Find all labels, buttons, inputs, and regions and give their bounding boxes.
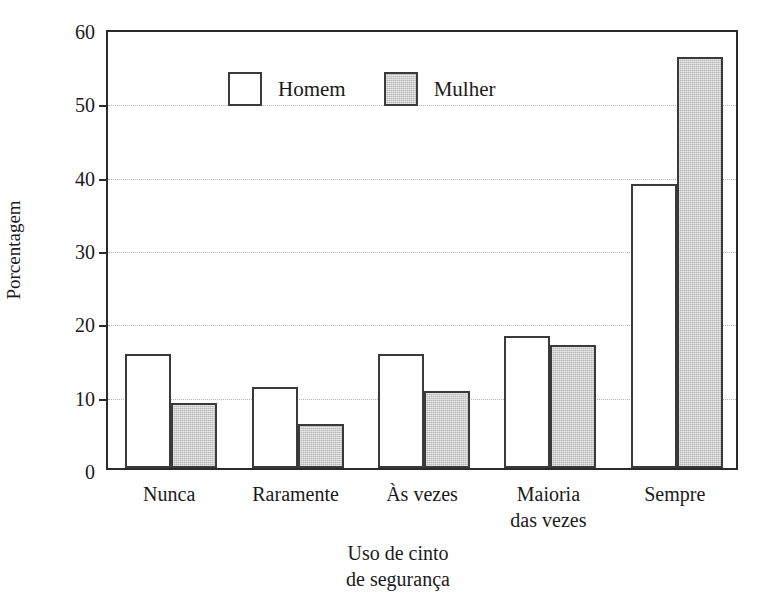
bar bbox=[252, 387, 298, 468]
bar bbox=[378, 354, 424, 468]
bar bbox=[125, 354, 171, 468]
bar-chart: Porcentagem 0102030405060 HomemMulher Nu… bbox=[0, 0, 774, 614]
y-tick-mark bbox=[99, 325, 108, 327]
legend-label: Homem bbox=[278, 79, 346, 100]
y-tick-label: 40 bbox=[75, 169, 95, 189]
bar bbox=[504, 336, 550, 468]
y-tick-label: 50 bbox=[75, 95, 95, 115]
bar bbox=[550, 345, 596, 468]
y-tick-mark bbox=[99, 252, 108, 254]
x-category-label: Nunca bbox=[143, 482, 195, 508]
y-tick-label: 20 bbox=[75, 315, 95, 335]
y-tick-label: 0 bbox=[85, 462, 95, 482]
y-tick-mark bbox=[99, 105, 108, 107]
y-tick-label: 30 bbox=[75, 242, 95, 262]
legend-entry: Mulher bbox=[384, 72, 496, 106]
bar bbox=[677, 57, 723, 468]
bar bbox=[298, 424, 344, 468]
y-tick-mark bbox=[99, 399, 108, 401]
bar bbox=[171, 403, 217, 468]
bar bbox=[424, 391, 470, 468]
legend-entry: Homem bbox=[228, 72, 346, 106]
x-axis-title: Uso de cinto de segurança bbox=[346, 540, 450, 592]
x-category-label: Maioria das vezes bbox=[510, 482, 586, 533]
x-category-label: Sempre bbox=[644, 482, 705, 508]
bar bbox=[631, 184, 677, 468]
y-tick-mark bbox=[99, 179, 108, 181]
legend-swatch-mulher bbox=[384, 72, 418, 106]
legend-label: Mulher bbox=[434, 79, 496, 100]
y-tick-label: 60 bbox=[75, 22, 95, 42]
x-category-label: Às vezes bbox=[386, 482, 458, 508]
y-axis-title: Porcentagem bbox=[3, 200, 25, 299]
legend: HomemMulher bbox=[228, 72, 495, 106]
legend-swatch-homem bbox=[228, 72, 262, 106]
gridline bbox=[108, 179, 736, 180]
y-tick-label: 10 bbox=[75, 389, 95, 409]
plot-area: 0102030405060 HomemMulher bbox=[106, 30, 738, 470]
x-category-label: Raramente bbox=[252, 482, 339, 508]
